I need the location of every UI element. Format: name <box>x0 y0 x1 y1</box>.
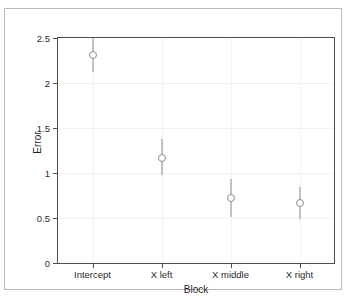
y-axis-title: Error <box>32 123 43 163</box>
x-axis-tick <box>231 263 232 268</box>
plot-axes-area: 00.511.522.5InterceptX leftX middleX rig… <box>57 37 335 264</box>
gridline-vertical <box>231 38 232 263</box>
y-axis-tick <box>53 38 58 39</box>
y-axis-tick <box>53 83 58 84</box>
y-axis-tick <box>53 128 58 129</box>
y-axis-tick-label: 1 <box>45 168 50 179</box>
y-axis-tick <box>53 173 58 174</box>
data-point-marker <box>89 51 97 59</box>
data-point-marker <box>296 199 304 207</box>
data-point-marker <box>158 154 166 162</box>
x-axis-tick-label: X middle <box>212 269 249 280</box>
data-point-marker <box>227 194 235 202</box>
x-axis-tick-label: Intercept <box>74 269 111 280</box>
x-axis-tick <box>300 263 301 268</box>
y-axis-tick-label: 2.5 <box>37 33 50 44</box>
y-axis-tick <box>53 218 58 219</box>
gridline-horizontal <box>58 173 334 174</box>
gridline-vertical <box>300 38 301 263</box>
y-axis-tick-label: 2 <box>45 78 50 89</box>
x-axis-tick-label: X right <box>286 269 313 280</box>
gridline-horizontal <box>58 218 334 219</box>
x-axis-title: Block <box>57 284 335 295</box>
gridline-horizontal <box>58 128 334 129</box>
x-axis-tick <box>93 263 94 268</box>
figure-frame: 00.511.522.5InterceptX leftX middleX rig… <box>4 8 342 290</box>
x-axis-tick-label: X left <box>151 269 173 280</box>
gridline-horizontal <box>58 83 334 84</box>
y-axis-tick-label: 0 <box>45 258 50 269</box>
y-axis-tick <box>53 263 58 264</box>
y-axis-tick-label: 0.5 <box>37 213 50 224</box>
x-axis-tick <box>162 263 163 268</box>
